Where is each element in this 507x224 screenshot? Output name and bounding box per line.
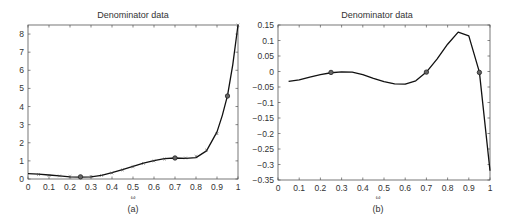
y-tick-label: −0.15 [252,113,274,123]
data-series [289,32,490,171]
y-tick-label: −0.25 [252,144,274,154]
x-tick-label: 0.3 [85,182,97,192]
circle-marker [78,175,82,179]
chart-panel-b: Denominator data 00.10.20.30.40.50.60.70… [252,10,492,214]
y-tick-label: 2 [19,138,24,148]
y-tick-label: −0.1 [257,98,274,108]
chart-panel-a: Denominator data 00.10.20.30.40.50.60.70… [19,10,240,214]
x-tick-label: 0.8 [442,183,454,193]
y-axis-ticks: 0.150.10.050−0.05−0.1−0.15−0.2−0.25−0.3−… [252,20,490,185]
x-tick-label: 0 [276,183,281,193]
x-axis-label: ω [131,194,136,200]
y-tick-label: 0.15 [257,20,274,30]
y-tick-label: −0.05 [252,82,274,92]
panel-caption: (a) [128,204,139,214]
y-tick-label: 5 [19,83,24,93]
y-tick-label: 0 [19,174,24,184]
x-tick-label: 0.7 [420,183,432,193]
y-tick-label: 0.1 [262,36,274,46]
y-tick-label: 4 [19,102,24,112]
circle-marker [173,156,177,160]
y-axis-ticks: 012345678 [19,29,238,184]
series-line [28,25,238,177]
x-tick-label: 0.2 [314,183,326,193]
x-tick-label: 0.1 [293,183,305,193]
circle-marker [424,70,428,74]
y-tick-label: 0 [269,67,274,77]
x-axis-ticks: 00.10.20.30.40.50.60.70.80.91 [276,25,493,193]
x-tick-label: 0.5 [378,183,390,193]
y-tick-label: 8 [19,29,24,39]
x-tick-label: 0.8 [190,182,202,192]
x-tick-label: 0.6 [399,183,411,193]
x-axis-label: ω [376,194,381,200]
x-tick-label: 0.6 [148,182,160,192]
x-tick-label: 0.3 [336,183,348,193]
plot-area-frame [28,25,238,179]
x-tick-label: 1 [236,182,241,192]
data-series [28,24,239,179]
y-tick-label: 1 [19,156,24,166]
plot-area-frame [278,25,490,180]
y-tick-label: 0.05 [257,51,274,61]
y-tick-label: 6 [19,65,24,75]
x-tick-label: 1 [488,183,493,193]
x-tick-label: 0.7 [169,182,181,192]
figure: Denominator data 00.10.20.30.40.50.60.70… [0,0,507,224]
circle-marker [329,70,333,74]
chart-title: Denominator data [97,10,169,20]
x-tick-label: 0.4 [357,183,369,193]
y-tick-label: −0.35 [252,175,274,185]
series-line [289,32,490,171]
panel-caption: (b) [373,204,384,214]
x-tick-label: 0.1 [43,182,55,192]
y-tick-label: 3 [19,120,24,130]
x-tick-label: 0.5 [127,182,139,192]
x-tick-label: 0.9 [463,183,475,193]
x-tick-label: 0 [26,182,31,192]
y-tick-label: −0.2 [257,129,274,139]
circle-marker [225,94,229,98]
x-tick-label: 0.4 [106,182,118,192]
y-tick-label: −0.3 [257,160,274,170]
circle-marker [477,70,481,74]
x-tick-label: 0.9 [211,182,223,192]
y-tick-label: 7 [19,47,24,57]
chart-title: Denominator data [341,10,413,20]
x-tick-label: 0.2 [64,182,76,192]
